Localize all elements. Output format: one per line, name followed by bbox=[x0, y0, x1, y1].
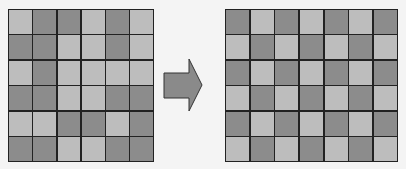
right-grid-cell-dark bbox=[374, 112, 397, 136]
left-grid-cell-light bbox=[9, 10, 32, 34]
right-grid-cell-dark bbox=[226, 10, 249, 34]
left-grid-cell-dark bbox=[58, 10, 81, 34]
left-grid-cell-light bbox=[9, 112, 32, 136]
right-grid-cell-dark bbox=[275, 10, 298, 34]
left-grid-cell-dark bbox=[130, 86, 153, 110]
left-grid-cell-light bbox=[58, 86, 81, 110]
right-grid-cell-light bbox=[251, 112, 274, 136]
left-grid-cell-dark bbox=[130, 112, 153, 136]
left-grid-cell-light bbox=[130, 35, 153, 59]
right-grid-cell-light bbox=[374, 137, 397, 161]
left-grid-cell-dark bbox=[82, 112, 105, 136]
left-grid-cell-dark bbox=[106, 10, 129, 34]
right-grid-cell-dark bbox=[325, 112, 348, 136]
right-grid-cell-light bbox=[251, 61, 274, 85]
left-grid-cell-dark bbox=[33, 137, 56, 161]
left-grid-cell-light bbox=[82, 137, 105, 161]
left-grid-cell-light bbox=[9, 61, 32, 85]
left-grid-cell-dark bbox=[106, 86, 129, 110]
right-grid-cell-dark bbox=[300, 137, 323, 161]
left-grid-cell-light bbox=[106, 61, 129, 85]
left-grid bbox=[8, 9, 154, 162]
right-grid-cell-light bbox=[251, 10, 274, 34]
right-grid-cell-dark bbox=[251, 35, 274, 59]
right-grid-cell-light bbox=[325, 35, 348, 59]
right-grid-cell-light bbox=[300, 61, 323, 85]
right-grid-cell-dark bbox=[374, 10, 397, 34]
left-grid-cell-light bbox=[82, 86, 105, 110]
right-grid-cell-dark bbox=[349, 137, 372, 161]
right-grid-cell-light bbox=[374, 86, 397, 110]
left-grid-cell-dark bbox=[106, 35, 129, 59]
right-grid-cell-light bbox=[275, 86, 298, 110]
right-grid-cell-light bbox=[349, 112, 372, 136]
left-grid-cell-dark bbox=[9, 35, 32, 59]
right-grid-cell-light bbox=[275, 35, 298, 59]
left-grid-cell-dark bbox=[33, 10, 56, 34]
right-grid-cell-light bbox=[349, 10, 372, 34]
right-grid-cell-dark bbox=[251, 86, 274, 110]
left-grid-cell-dark bbox=[33, 35, 56, 59]
arrow-shape bbox=[164, 59, 202, 111]
right-grid-cell-dark bbox=[325, 10, 348, 34]
left-grid-cell-dark bbox=[9, 137, 32, 161]
left-grid-cell-dark bbox=[33, 86, 56, 110]
left-grid-cell-light bbox=[82, 61, 105, 85]
left-grid-cell-light bbox=[82, 10, 105, 34]
right-grid-cell-dark bbox=[300, 86, 323, 110]
right-grid-cell-dark bbox=[349, 35, 372, 59]
left-grid-cell-light bbox=[58, 35, 81, 59]
left-grid-cell-light bbox=[33, 112, 56, 136]
right-grid-cell-dark bbox=[275, 112, 298, 136]
left-grid-cell-dark bbox=[106, 137, 129, 161]
left-grid-cell-light bbox=[58, 137, 81, 161]
right-grid-cell-light bbox=[226, 35, 249, 59]
left-grid-cell-dark bbox=[33, 61, 56, 85]
right-grid-cell-dark bbox=[349, 86, 372, 110]
right-grid-cell-light bbox=[325, 137, 348, 161]
right-grid-cell-light bbox=[226, 86, 249, 110]
right-grid-cell-light bbox=[325, 86, 348, 110]
right-grid-cell-dark bbox=[300, 35, 323, 59]
left-grid-cell-light bbox=[58, 61, 81, 85]
right-arrow-icon bbox=[163, 58, 203, 112]
left-grid-cell-light bbox=[130, 10, 153, 34]
left-grid-cell-dark bbox=[9, 86, 32, 110]
left-grid-cell-dark bbox=[58, 112, 81, 136]
right-grid-cell-dark bbox=[275, 61, 298, 85]
left-grid-cell-light bbox=[82, 35, 105, 59]
right-grid-cell-dark bbox=[374, 61, 397, 85]
left-grid-cell-light bbox=[106, 112, 129, 136]
right-grid-cell-light bbox=[226, 137, 249, 161]
right-grid-cell-dark bbox=[226, 112, 249, 136]
right-grid-cell-light bbox=[349, 61, 372, 85]
right-grid-cell-light bbox=[275, 137, 298, 161]
right-grid-cell-light bbox=[374, 35, 397, 59]
right-grid bbox=[225, 9, 398, 162]
right-grid-cell-light bbox=[300, 10, 323, 34]
right-grid-cell-dark bbox=[226, 61, 249, 85]
left-grid-cell-dark bbox=[130, 137, 153, 161]
left-grid-cell-light bbox=[130, 61, 153, 85]
right-grid-cell-light bbox=[300, 112, 323, 136]
right-grid-cell-dark bbox=[325, 61, 348, 85]
right-grid-cell-dark bbox=[251, 137, 274, 161]
